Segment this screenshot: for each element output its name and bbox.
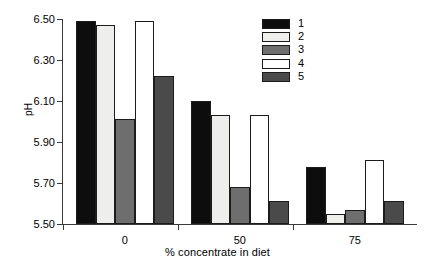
y-tick-label: 5.90 (34, 136, 55, 148)
y-tick-mark (57, 101, 62, 102)
y-tick-mark (57, 60, 62, 61)
x-tick-mark (178, 225, 179, 230)
y-tick-mark (57, 224, 62, 225)
legend-label: 1 (298, 17, 304, 29)
y-axis-label: pH (23, 90, 34, 130)
chart-legend: 12345 (262, 18, 352, 84)
bar (326, 214, 346, 224)
x-tick-label: 75 (349, 234, 361, 246)
bar (154, 76, 174, 224)
bar (384, 201, 404, 224)
legend-label: 5 (298, 70, 304, 82)
legend-item: 2 (262, 31, 352, 44)
bar-chart: pH 5.505.705.906.106.306.50 05075 % conc… (0, 0, 435, 267)
y-tick-label: 6.10 (34, 95, 55, 107)
legend-swatch (262, 59, 290, 69)
bar (230, 187, 250, 224)
x-tick-mark (63, 225, 64, 230)
bar (211, 115, 231, 224)
bar (306, 167, 326, 224)
y-tick-mark (57, 19, 62, 20)
y-tick-label: 6.50 (34, 13, 55, 25)
bar (365, 160, 385, 224)
y-tick-mark (57, 183, 62, 184)
legend-swatch (262, 45, 290, 55)
y-tick-mark (57, 142, 62, 143)
plot-area: 5.505.705.906.106.306.50 05075 (62, 19, 417, 225)
legend-item: 1 (262, 18, 352, 31)
y-tick-label: 5.50 (34, 218, 55, 230)
bar (269, 201, 289, 224)
legend-item: 3 (262, 44, 352, 57)
bar (135, 21, 155, 224)
legend-item: 5 (262, 71, 352, 84)
legend-swatch (262, 72, 290, 82)
legend-label: 4 (298, 57, 304, 69)
bar (191, 101, 211, 224)
bar (250, 115, 270, 224)
bar (115, 119, 135, 224)
legend-item: 4 (262, 58, 352, 71)
x-tick-label: 0 (122, 234, 128, 246)
x-axis-label: % concentrate in diet (0, 246, 435, 258)
legend-swatch (262, 19, 290, 29)
bar (96, 25, 116, 224)
y-tick-label: 5.70 (34, 177, 55, 189)
x-tick-mark (293, 225, 294, 230)
legend-label: 3 (298, 43, 304, 55)
legend-label: 2 (298, 30, 304, 42)
bar (345, 210, 365, 224)
y-axis-line (62, 19, 63, 225)
legend-swatch (262, 32, 290, 42)
x-axis-line (62, 224, 417, 225)
bar (76, 21, 96, 224)
x-tick-label: 50 (234, 234, 246, 246)
y-tick-label: 6.30 (34, 54, 55, 66)
